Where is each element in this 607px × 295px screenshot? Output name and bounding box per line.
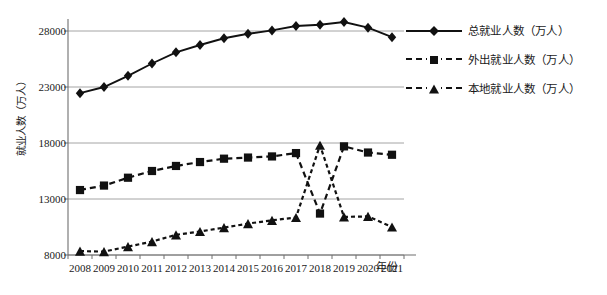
x-tick-label: 2016	[261, 262, 283, 274]
chart-legend: 总就业人数（万人） 外出就业人数（万人） 本地就业人数（万人）	[406, 24, 580, 96]
data-point-square	[172, 162, 180, 170]
data-point-diamond	[316, 20, 324, 30]
data-point-diamond	[196, 40, 204, 50]
legend-key-square	[406, 53, 462, 67]
legend-item-local[interactable]: 本地就业人数（万人）	[406, 82, 580, 96]
data-point-diamond	[148, 58, 156, 68]
legend-label-migrant: 外出就业人数（万人）	[468, 53, 580, 67]
data-point-square	[364, 148, 372, 156]
data-point-diamond	[220, 33, 228, 43]
data-point-diamond	[268, 25, 276, 35]
data-point-triangle	[243, 219, 253, 228]
data-point-diamond	[100, 82, 108, 92]
y-tick-label: 8000	[44, 249, 66, 261]
square-marker-icon	[430, 56, 438, 64]
legend-item-migrant[interactable]: 外出就业人数（万人）	[406, 53, 580, 67]
data-point-diamond	[172, 47, 180, 57]
y-tick-label: 18000	[39, 137, 67, 149]
legend-key-diamond	[406, 24, 462, 38]
data-point-square	[244, 153, 252, 161]
y-tick-label: 28000	[39, 25, 67, 37]
x-tick-label: 2011	[141, 262, 163, 274]
legend-key-triangle	[406, 82, 462, 96]
y-tick-label: 13000	[39, 193, 67, 205]
x-tick-label: 2017	[285, 262, 307, 274]
data-point-triangle	[387, 222, 397, 231]
triangle-marker-icon	[429, 85, 439, 94]
data-point-square	[76, 186, 84, 194]
data-point-square	[148, 167, 156, 175]
legend-label-total: 总就业人数（万人）	[468, 24, 569, 38]
data-point-diamond	[244, 29, 252, 39]
data-point-square	[292, 149, 300, 157]
data-point-square	[196, 158, 204, 166]
legend-item-total[interactable]: 总就业人数（万人）	[406, 24, 580, 38]
data-point-triangle	[99, 247, 109, 256]
data-point-square	[100, 181, 108, 189]
data-point-triangle	[315, 141, 325, 150]
data-point-square	[316, 209, 324, 217]
data-point-square	[124, 174, 132, 182]
data-point-square	[268, 152, 276, 160]
data-point-triangle	[195, 227, 205, 236]
x-tick-label: 2009	[93, 262, 115, 274]
chart-figure: 800013000180002300028000 200820092010201…	[0, 0, 607, 295]
data-point-diamond	[292, 21, 300, 31]
x-tick-label: 2015	[237, 262, 259, 274]
x-tick-label: 2018	[309, 262, 331, 274]
y-axis-ticks: 800013000180002300028000	[0, 0, 66, 295]
x-tick-label: 2012	[165, 262, 187, 274]
data-point-triangle	[147, 237, 157, 246]
diamond-marker-icon	[429, 26, 439, 36]
data-point-diamond	[340, 17, 348, 27]
x-tick-label: 2010	[117, 262, 139, 274]
x-tick-label: 2019	[333, 262, 355, 274]
series-line-0	[80, 22, 392, 93]
x-tick-label: 2008	[69, 262, 91, 274]
y-axis-label: 就业人数（万人）	[13, 56, 28, 176]
data-point-square	[340, 142, 348, 150]
x-tick-label: 2014	[213, 262, 235, 274]
x-tick-label: 2013	[189, 262, 211, 274]
data-point-diamond	[124, 71, 132, 81]
data-point-square	[220, 155, 228, 163]
data-point-diamond	[388, 32, 396, 42]
data-point-square	[388, 151, 396, 159]
series-line-2	[80, 145, 392, 251]
data-point-triangle	[363, 212, 373, 221]
data-point-diamond	[76, 88, 84, 98]
y-tick-label: 23000	[39, 81, 67, 93]
data-point-triangle	[291, 213, 301, 222]
x-axis-label: 年份	[376, 258, 398, 274]
legend-label-local: 本地就业人数（万人）	[468, 82, 580, 96]
